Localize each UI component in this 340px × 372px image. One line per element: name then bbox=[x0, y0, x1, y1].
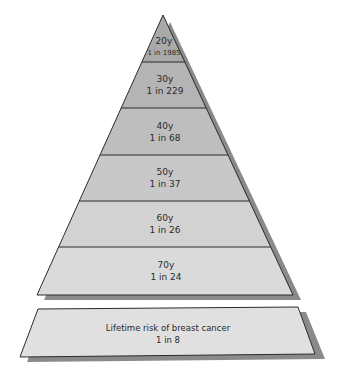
level-risk-50y: 1 in 37 bbox=[149, 179, 180, 189]
level-band-60y bbox=[0, 201, 340, 247]
level-risk-70y: 1 in 24 bbox=[150, 272, 181, 282]
level-risk-30y: 1 in 229 bbox=[147, 86, 184, 96]
base-title: Lifetime risk of breast cancer bbox=[106, 323, 231, 333]
level-age-40y: 40y bbox=[157, 121, 174, 131]
level-age-70y: 70y bbox=[158, 260, 175, 270]
level-age-50y: 50y bbox=[157, 167, 174, 177]
level-age-20y: 20y bbox=[156, 36, 173, 46]
base-risk: 1 in 8 bbox=[156, 335, 180, 345]
level-age-30y: 30y bbox=[157, 74, 174, 84]
risk-pyramid-diagram: 20y 1 in 1985 30y 1 in 229 40y 1 in 68 5… bbox=[0, 0, 340, 372]
level-band-40y bbox=[0, 108, 340, 155]
level-risk-20y: 1 in 1985 bbox=[147, 49, 180, 57]
level-band-30y bbox=[0, 62, 340, 108]
level-age-60y: 60y bbox=[157, 213, 174, 223]
level-band-50y bbox=[0, 155, 340, 201]
level-risk-40y: 1 in 68 bbox=[149, 133, 180, 143]
pyramid: 20y 1 in 1985 30y 1 in 229 40y 1 in 68 5… bbox=[0, 10, 340, 295]
level-risk-60y: 1 in 26 bbox=[149, 225, 180, 235]
level-band-70y bbox=[0, 247, 340, 295]
